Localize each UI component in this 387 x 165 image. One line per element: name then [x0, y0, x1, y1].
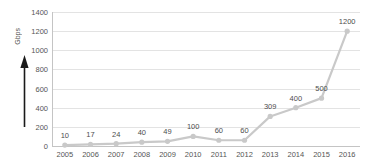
data-point-marker	[88, 142, 93, 147]
data-point-marker	[268, 114, 273, 119]
data-point-marker	[165, 139, 170, 144]
data-point-marker	[139, 140, 144, 145]
data-point-marker	[191, 134, 196, 139]
data-point-marker	[114, 141, 119, 146]
data-series-line	[0, 0, 387, 165]
data-point-marker	[293, 105, 298, 110]
data-point-marker	[242, 138, 247, 143]
data-point-marker	[319, 96, 324, 101]
line-chart: 0200400600800100012001400 20052006200720…	[0, 0, 387, 165]
data-point-marker	[345, 29, 350, 34]
data-point-marker	[62, 142, 67, 147]
data-point-marker	[216, 138, 221, 143]
